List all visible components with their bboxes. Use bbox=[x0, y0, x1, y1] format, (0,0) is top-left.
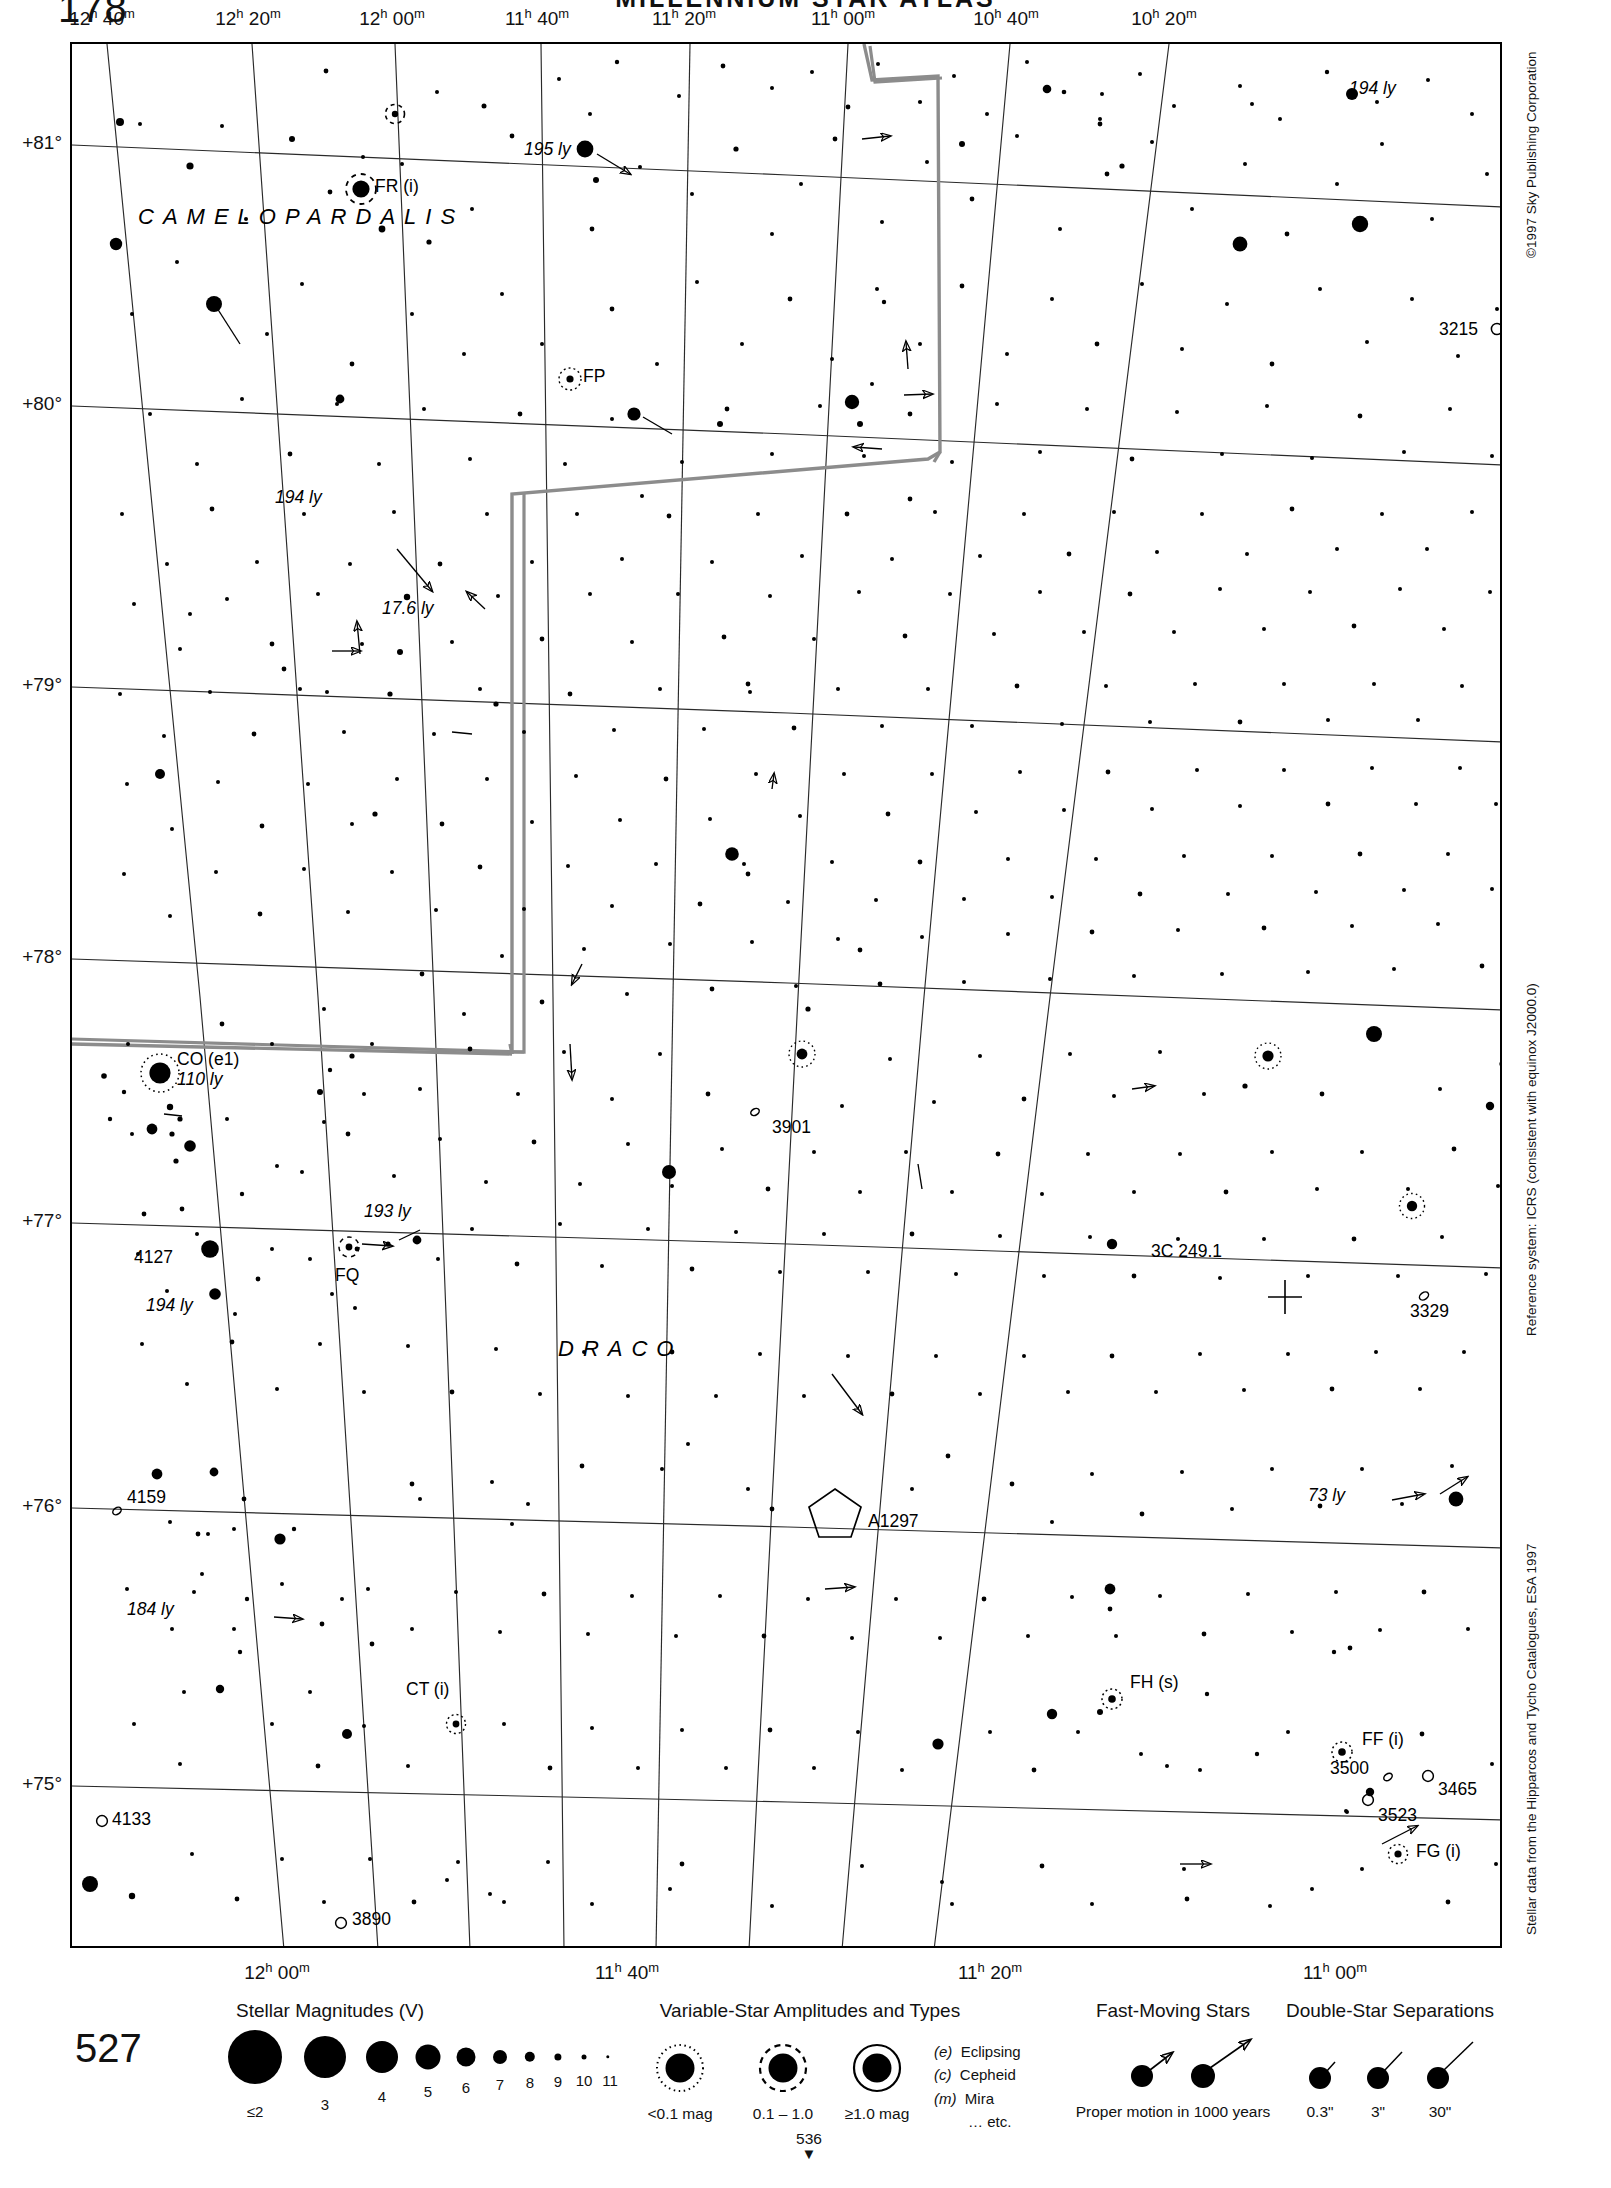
chevron-down-icon: ▼ bbox=[796, 2148, 822, 2160]
variable-star-FH bbox=[1108, 1695, 1116, 1703]
data-source-note: Stellar data from the Hipparcos and Tych… bbox=[1524, 1544, 1539, 1936]
variable-star-FG bbox=[1394, 1850, 1401, 1857]
ra-tick-bottom-2: 11h 20m bbox=[958, 1960, 1022, 1984]
distance-label-194ly-topright: 194 ly bbox=[1349, 79, 1396, 99]
variable-star-FR bbox=[352, 180, 369, 197]
copyright-notice: ©1997 Sky Publishing Corporation bbox=[1524, 51, 1539, 258]
galaxy-label-3500: 3500 bbox=[1330, 1759, 1369, 1779]
variable-type-row-2: (m) Mira bbox=[934, 2087, 1021, 2110]
galaxy-label-3329: 3329 bbox=[1410, 1302, 1449, 1322]
galaxy-3901-symbol bbox=[750, 1107, 761, 1117]
galaxy-label-3465: 3465 bbox=[1438, 1780, 1477, 1800]
ra-tick-top-7: 10h 20m bbox=[1131, 6, 1197, 30]
galaxy-label-3901: 3901 bbox=[772, 1118, 811, 1138]
variable-star-FF bbox=[1338, 1748, 1346, 1756]
star-label-CT: CT (i) bbox=[406, 1680, 449, 1700]
magnitude-label-2: 4 bbox=[378, 2088, 386, 2105]
galaxy-label-4159: 4159 bbox=[127, 1488, 166, 1508]
dec-tick-79: +79° bbox=[0, 674, 62, 696]
dec-tick-81: +81° bbox=[0, 132, 62, 154]
magnitude-dot-6 bbox=[525, 2052, 535, 2062]
dec-tick-75: +75° bbox=[0, 1773, 62, 1795]
constellation-label-draco: DRACO bbox=[558, 1336, 682, 1362]
magnitude-label-9: 11 bbox=[602, 2072, 618, 2089]
galaxy-cluster-A1297-symbol bbox=[809, 1489, 861, 1537]
magnitude-dot-0 bbox=[228, 2030, 282, 2084]
magnitude-dot-9 bbox=[606, 2055, 609, 2058]
variable-star-CT bbox=[453, 1721, 460, 1728]
galaxy-label-3890: 3890 bbox=[352, 1910, 391, 1930]
ra-tick-top-1: 12h 20m bbox=[215, 6, 281, 30]
dec-tick-76: +76° bbox=[0, 1495, 62, 1517]
magnitude-dot-7 bbox=[554, 2053, 561, 2060]
galaxy-4159-symbol bbox=[111, 1506, 122, 1517]
magnitude-label-3: 5 bbox=[424, 2083, 432, 2100]
star-label-FQ: FQ bbox=[335, 1266, 359, 1286]
galaxy-label-3215: 3215 bbox=[1439, 320, 1478, 340]
ra-tick-top-2: 12h 00m bbox=[359, 6, 425, 30]
star-field bbox=[82, 60, 1502, 1929]
star-label-FP: FP bbox=[583, 367, 605, 387]
star-label-FR: FR (i) bbox=[375, 177, 419, 197]
ra-tick-top-6: 10h 40m bbox=[973, 6, 1039, 30]
legend-title-fast-moving: Fast-Moving Stars bbox=[1096, 2000, 1250, 2022]
quasar-label-3C249: 3C 249.1 bbox=[1151, 1242, 1222, 1262]
bright-star-73ly bbox=[1449, 1492, 1464, 1507]
fast-moving-symbols bbox=[1100, 2032, 1270, 2094]
right-ascension-gridlines bbox=[107, 44, 1169, 1948]
magnitude-label-1: 3 bbox=[321, 2096, 329, 2113]
magnitude-label-8: 10 bbox=[576, 2072, 593, 2089]
galaxy-label-3523: 3523 bbox=[1378, 1806, 1417, 1826]
variable-amplitude-label-0: <0.1 mag bbox=[647, 2105, 712, 2123]
ra-tick-bottom-3: 11h 00m bbox=[1303, 1960, 1367, 1984]
galaxy-3215-symbol bbox=[1491, 323, 1502, 334]
dec-tick-78: +78° bbox=[0, 946, 62, 968]
star-label-CO: CO (e1)110 ly bbox=[177, 1050, 239, 1089]
ra-tick-bottom-0: 12h 00m bbox=[244, 1960, 310, 1984]
magnitude-dot-2 bbox=[366, 2041, 398, 2073]
cluster-label-A1297: A1297 bbox=[868, 1512, 919, 1532]
star-label-FH: FH (s) bbox=[1130, 1673, 1179, 1693]
ra-tick-bottom-1: 11h 40m bbox=[595, 1960, 659, 1984]
proper-motion-arrows bbox=[164, 136, 1467, 1864]
legend-title-magnitudes: Stellar Magnitudes (V) bbox=[236, 2000, 424, 2022]
variable-type-row-0: (e) Eclipsing bbox=[934, 2040, 1021, 2063]
double-sep-label-1: 3" bbox=[1371, 2103, 1385, 2121]
variable-amplitude-label-1: 0.1 – 1.0 bbox=[753, 2105, 813, 2123]
ra-tick-top-0: 12h 40m bbox=[69, 6, 135, 30]
variable-star-FQ bbox=[346, 1244, 353, 1251]
quasar-3C249-symbol bbox=[1268, 1280, 1302, 1314]
ra-tick-top-5: 11h 00m bbox=[811, 6, 875, 30]
variable-type-row-1: (c) Cepheid bbox=[934, 2063, 1021, 2086]
star-chart-map[interactable]: CAMELOPARDALIS DRACO FR (i) FP 195 ly 19… bbox=[70, 42, 1502, 1948]
galaxy-label-4133: 4133 bbox=[112, 1810, 151, 1830]
distance-label-194ly-lower: 194 ly bbox=[146, 1296, 193, 1316]
chart-legend: 527 Stellar Magnitudes (V) ≤2 3 4 5 6 7 … bbox=[0, 1990, 1611, 2188]
galaxy-3329-symbol bbox=[1418, 1290, 1430, 1301]
bright-star-4127 bbox=[201, 1240, 219, 1258]
variable-amplitude-label-2: ≥1.0 mag bbox=[845, 2105, 910, 2123]
ra-tick-top-4: 11h 20m bbox=[652, 6, 716, 30]
star-label-FF: FF (i) bbox=[1362, 1730, 1404, 1750]
magnitude-dot-4 bbox=[457, 2048, 476, 2067]
variable-type-list: (e) Eclipsing (c) Cepheid (m) Mira … etc… bbox=[934, 2040, 1021, 2133]
double-star-symbols bbox=[1290, 2032, 1520, 2094]
distance-label-184ly: 184 ly bbox=[127, 1600, 174, 1620]
declination-gridlines bbox=[72, 145, 1502, 1820]
magnitude-label-5: 7 bbox=[496, 2076, 504, 2093]
distance-label-193ly: 193 ly bbox=[364, 1202, 411, 1222]
variable-star-FP bbox=[566, 375, 573, 382]
distance-label-194ly-left: 194 ly bbox=[275, 488, 322, 508]
atlas-page: 178 MILLENNIUM STAR ATLAS 12h 40m 12h 20… bbox=[0, 0, 1611, 2188]
legend-title-variables: Variable-Star Amplitudes and Types bbox=[660, 2000, 960, 2022]
fast-moving-caption: Proper motion in 1000 years bbox=[1076, 2103, 1271, 2121]
star-label-FG: FG (i) bbox=[1416, 1842, 1461, 1862]
magnitude-label-6: 8 bbox=[526, 2074, 534, 2091]
galaxy-3523-symbol bbox=[1363, 1795, 1374, 1806]
magnitude-label-7: 9 bbox=[554, 2073, 562, 2090]
double-sep-label-0: 0.3" bbox=[1306, 2103, 1333, 2121]
magnitude-label-4: 6 bbox=[462, 2079, 470, 2096]
galaxy-label-4127: 4127 bbox=[134, 1248, 173, 1268]
galaxy-3465-symbol bbox=[1423, 1771, 1434, 1782]
dec-tick-77: +77° bbox=[0, 1210, 62, 1232]
